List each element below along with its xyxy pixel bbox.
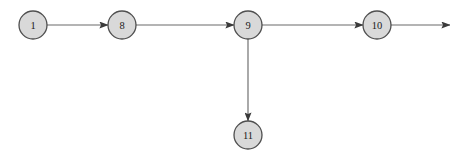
node-1[interactable]: 1 xyxy=(19,11,47,39)
node-label-11: 11 xyxy=(243,130,253,141)
diagram-canvas: 1891011 xyxy=(0,0,464,159)
node-10[interactable]: 10 xyxy=(363,11,391,39)
node-9[interactable]: 9 xyxy=(234,11,262,39)
nodes-group: 1891011 xyxy=(19,11,391,149)
node-8[interactable]: 8 xyxy=(108,11,136,39)
node-label-9: 9 xyxy=(245,20,250,31)
node-label-8: 8 xyxy=(119,20,124,31)
graph-svg: 1891011 xyxy=(0,0,464,159)
node-label-1: 1 xyxy=(30,20,35,31)
node-11[interactable]: 11 xyxy=(234,121,262,149)
node-label-10: 10 xyxy=(372,20,383,31)
